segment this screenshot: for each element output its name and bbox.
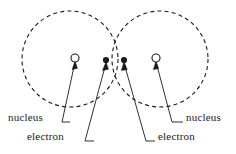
arrowhead-electron-right [121, 62, 127, 70]
arrowhead-electron-left [103, 62, 109, 70]
leader-line-electron-left [85, 63, 106, 141]
leader-line-nucleus-left [62, 62, 75, 122]
orbital-overlap-diagram: nucleus electron nucleus electron [0, 0, 236, 154]
electron-left-dot [103, 57, 109, 63]
arrowhead-nucleus-right [153, 62, 158, 70]
electron-right-dot [121, 57, 127, 63]
nucleus-left-marker [71, 54, 79, 62]
label-electron-right: electron [158, 131, 195, 142]
leader-line-nucleus-right [156, 62, 183, 122]
label-nucleus-right: nucleus [186, 112, 221, 123]
nucleus-right-marker [152, 54, 160, 62]
arrowhead-nucleus-left [72, 62, 77, 70]
label-electron-left: electron [27, 131, 64, 142]
label-nucleus-left: nucleus [8, 112, 43, 123]
